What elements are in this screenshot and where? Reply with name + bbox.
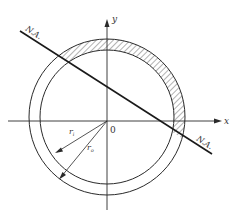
inner-radius-label: ri [69,127,75,137]
hollow-circular-section-diagram: y x 0 N.A. N.A. ri ro [0,0,236,216]
y-axis-label: y [111,14,118,24]
inner-radius-arrow-icon [55,148,63,154]
inner-radius-line [57,121,107,152]
origin-label: 0 [110,125,116,135]
outer-radius-line [61,121,107,177]
outer-radius-label: ro [87,143,94,153]
x-axis-label: x [224,116,229,126]
outer-radius-arrow-icon [59,172,66,180]
